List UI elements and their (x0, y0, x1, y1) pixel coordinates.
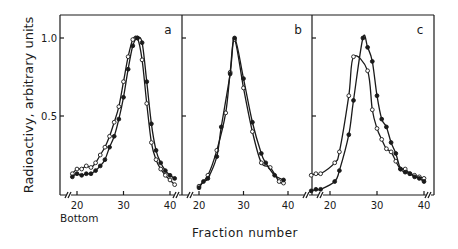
x-tick-label: 30 (237, 200, 250, 211)
filled-circle-marker (154, 148, 158, 152)
filled-circle-marker (228, 72, 232, 76)
x-tick-label: 20 (193, 200, 206, 211)
open-circle-marker (319, 172, 323, 176)
filled-circle-marker (338, 169, 342, 173)
filled-circle-marker (242, 77, 246, 81)
filled-circle-marker (352, 99, 356, 103)
filled-circle-marker (84, 172, 88, 176)
filled-circle-marker (333, 180, 337, 184)
x-tick-label: 40 (282, 200, 295, 211)
open-circle-marker (163, 173, 167, 177)
series-curve (199, 39, 284, 186)
filled-circle-marker (319, 187, 323, 191)
filled-circle-marker (422, 180, 426, 184)
open-circle-marker (389, 150, 393, 154)
open-circle-marker (366, 69, 370, 73)
filled-circle-marker (108, 145, 112, 149)
open-circle-marker (385, 147, 389, 151)
filled-circle-marker (173, 177, 177, 181)
open-circle-marker (122, 80, 126, 84)
filled-circle-marker (140, 41, 144, 45)
panel-c: 203040c (309, 15, 434, 211)
filled-circle-marker (94, 169, 98, 173)
filled-circle-marker (219, 125, 223, 129)
filled-circle-marker (70, 175, 74, 179)
filled-circle-marker (131, 44, 135, 48)
filled-circle-marker (150, 122, 154, 126)
x-tick-label: 20 (71, 200, 84, 211)
filled-circle-marker (399, 167, 403, 171)
open-circle-marker (80, 167, 84, 171)
filled-circle-marker (389, 141, 393, 145)
open-circle-marker (338, 150, 342, 154)
filled-circle-marker (264, 161, 268, 165)
chart-svg: 0.51.0203040a203040b203040c Radioactivy,… (0, 0, 458, 249)
y-axis-label: Radioactivy, arbitrary units (21, 16, 36, 193)
filled-circle-marker (375, 94, 379, 98)
filled-circle-marker (233, 36, 237, 40)
open-circle-marker (145, 102, 149, 106)
filled-circle-marker (75, 172, 79, 176)
filled-circle-marker (259, 152, 263, 156)
filled-circle-marker (80, 173, 84, 177)
chart-panels: 0.51.0203040a203040b203040c (41, 15, 434, 211)
panel-label: b (294, 23, 302, 37)
filled-circle-marker (145, 80, 149, 84)
open-circle-marker (259, 161, 263, 165)
open-circle-marker (94, 161, 98, 165)
x-axis-label: Fraction number (192, 226, 298, 240)
open-circle-marker (314, 172, 318, 176)
panel-a: 0.51.0203040a (41, 15, 182, 211)
filled-circle-marker (380, 117, 384, 121)
filled-circle-marker (314, 187, 318, 191)
x-tick-label: 30 (117, 200, 130, 211)
series-curve (311, 56, 424, 179)
open-circle-marker (352, 55, 356, 59)
open-circle-marker (108, 134, 112, 138)
open-circle-marker (112, 120, 116, 124)
filled-circle-marker (163, 169, 167, 173)
filled-circle-marker (159, 161, 163, 165)
y-tick-label: 0.5 (41, 111, 57, 122)
filled-circle-marker (385, 125, 389, 129)
panel-label: c (417, 23, 424, 37)
open-circle-marker (333, 161, 337, 165)
open-circle-marker (370, 108, 374, 112)
open-circle-marker (159, 167, 163, 171)
filled-circle-marker (347, 133, 351, 137)
open-circle-marker (89, 166, 93, 170)
filled-circle-marker (112, 134, 116, 138)
filled-circle-marker (273, 173, 277, 177)
x-axis-note-bottom: Bottom (60, 212, 99, 224)
x-tick-label: 20 (324, 200, 337, 211)
filled-circle-marker (413, 175, 417, 179)
panel-b: 203040b (182, 15, 312, 211)
open-circle-marker (277, 180, 281, 184)
open-circle-marker (98, 153, 102, 157)
filled-circle-marker (366, 45, 370, 49)
x-tick-label: 40 (418, 200, 431, 211)
x-tick-label: 30 (371, 200, 384, 211)
filled-circle-marker (202, 180, 206, 184)
filled-circle-marker (408, 172, 412, 176)
open-circle-marker (168, 178, 172, 182)
filled-circle-marker (370, 60, 374, 64)
filled-circle-marker (206, 177, 210, 181)
filled-circle-marker (282, 178, 286, 182)
filled-circle-marker (168, 173, 172, 177)
open-circle-marker (251, 130, 255, 134)
filled-circle-marker (417, 177, 421, 181)
filled-circle-marker (103, 158, 107, 162)
y-tick-label: 1.0 (41, 33, 57, 44)
panel-label: a (164, 23, 171, 37)
series-curve (311, 35, 424, 191)
open-circle-marker (117, 105, 121, 109)
filled-circle-marker (197, 186, 201, 190)
filled-circle-marker (122, 95, 126, 99)
open-circle-marker (309, 173, 313, 177)
open-circle-marker (75, 167, 79, 171)
open-circle-marker (173, 183, 177, 187)
filled-circle-marker (309, 189, 313, 193)
chart-figure: 0.51.0203040a203040b203040c Radioactivy,… (0, 0, 458, 249)
open-circle-marker (84, 164, 88, 168)
